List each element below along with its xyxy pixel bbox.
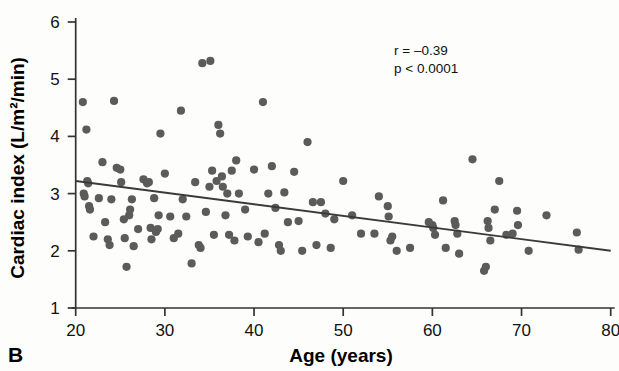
data-point xyxy=(290,168,298,176)
data-point xyxy=(89,232,97,240)
data-point xyxy=(491,206,499,214)
data-point xyxy=(202,208,210,216)
data-point xyxy=(221,211,229,219)
x-tick-label: 60 xyxy=(423,321,442,340)
data-point xyxy=(150,194,158,202)
x-axis-title: Age (years) xyxy=(289,345,393,366)
y-tick-label: 2 xyxy=(50,242,59,261)
data-point xyxy=(482,263,490,271)
data-point xyxy=(110,97,118,105)
data-point xyxy=(105,241,113,249)
data-point xyxy=(81,192,89,200)
data-point xyxy=(155,211,163,219)
data-point xyxy=(107,195,115,203)
data-point xyxy=(277,247,285,255)
data-point xyxy=(284,218,292,226)
data-point xyxy=(188,259,196,267)
data-point xyxy=(339,177,347,185)
data-point xyxy=(525,247,533,255)
x-tick-label: 40 xyxy=(245,321,264,340)
data-point xyxy=(79,98,87,106)
tick-marks-group xyxy=(68,22,611,316)
data-point xyxy=(280,188,288,196)
data-point xyxy=(206,57,214,65)
data-point xyxy=(128,195,136,203)
y-tick-label: 5 xyxy=(50,70,59,89)
data-point xyxy=(230,236,238,244)
data-point xyxy=(451,221,459,229)
data-point xyxy=(295,217,303,225)
data-point xyxy=(385,212,393,220)
data-point xyxy=(298,247,306,255)
y-tick-labels: 123456 xyxy=(50,13,59,318)
data-point xyxy=(156,129,164,137)
data-point xyxy=(254,238,262,246)
data-point xyxy=(439,196,447,204)
panel-label: B xyxy=(8,343,23,366)
x-tick-label: 50 xyxy=(334,321,353,340)
data-point xyxy=(145,178,153,186)
data-point xyxy=(513,207,521,215)
data-point xyxy=(486,236,494,244)
x-tick-labels: 20304050607080 xyxy=(66,321,619,340)
data-point xyxy=(268,162,276,170)
data-point xyxy=(370,230,378,238)
data-point xyxy=(134,225,142,233)
data-point xyxy=(101,218,109,226)
data-point xyxy=(117,178,125,186)
data-point xyxy=(95,194,103,202)
data-point xyxy=(198,59,206,67)
data-point xyxy=(542,211,550,219)
data-point xyxy=(205,183,213,191)
data-point xyxy=(303,138,311,146)
data-point xyxy=(388,232,396,240)
data-point xyxy=(484,224,492,232)
data-point xyxy=(216,129,224,137)
data-point xyxy=(261,230,269,238)
data-point xyxy=(375,192,383,200)
data-point xyxy=(177,107,185,115)
data-point xyxy=(121,234,129,242)
data-point xyxy=(161,169,169,177)
axes-group xyxy=(72,18,615,308)
data-point xyxy=(223,190,231,198)
data-point xyxy=(250,165,258,173)
data-point xyxy=(442,244,450,252)
correlation-annotation: r = –0.39 xyxy=(394,43,448,58)
data-point xyxy=(147,235,155,243)
y-axis-title: Cardiac index (L/m²/min) xyxy=(7,57,28,279)
scatter-plot-figure: 20304050607080 123456 Age (years) Cardia… xyxy=(0,0,619,371)
data-point xyxy=(406,244,414,252)
y-tick-label: 1 xyxy=(50,299,59,318)
data-point xyxy=(244,232,252,240)
data-point xyxy=(509,230,517,238)
data-point xyxy=(208,167,216,175)
data-point xyxy=(86,206,94,214)
y-tick-label: 3 xyxy=(50,185,59,204)
data-point xyxy=(235,190,243,198)
data-point xyxy=(393,247,401,255)
data-point xyxy=(495,177,503,185)
data-point xyxy=(514,221,522,229)
data-point xyxy=(330,215,338,223)
data-point xyxy=(210,231,218,239)
data-point xyxy=(191,178,199,186)
data-point xyxy=(219,183,227,191)
data-point xyxy=(327,244,335,252)
data-point xyxy=(384,202,392,210)
data-point xyxy=(259,98,267,106)
x-tick-label: 80 xyxy=(601,321,619,340)
data-point xyxy=(357,230,365,238)
data-point xyxy=(122,263,130,271)
data-point xyxy=(130,242,138,250)
data-point xyxy=(455,250,463,258)
data-point xyxy=(431,231,439,239)
data-point xyxy=(98,158,106,166)
data-point xyxy=(174,230,182,238)
data-point xyxy=(179,195,187,203)
data-point xyxy=(214,121,222,129)
x-tick-label: 70 xyxy=(512,321,531,340)
data-point xyxy=(126,206,134,214)
data-point xyxy=(312,241,320,249)
data-point xyxy=(468,155,476,163)
